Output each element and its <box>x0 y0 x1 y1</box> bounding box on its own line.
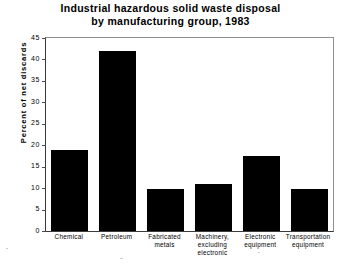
y-axis-tick-label: 10 <box>31 184 40 191</box>
y-axis-tick-mark <box>42 231 46 232</box>
x-axis-tick-label: Transportationequipment <box>277 233 339 249</box>
y-axis-tick-label: 15 <box>31 162 40 169</box>
bar <box>195 184 232 231</box>
y-axis-tick-label: 45 <box>31 34 40 41</box>
bar <box>147 189 184 231</box>
bar-series <box>46 38 333 231</box>
y-axis-tick-label: 35 <box>31 76 40 83</box>
chart-title: Industrial hazardous solid waste disposa… <box>0 2 341 28</box>
y-axis-tick-label: 30 <box>31 98 40 105</box>
chart-figure: Industrial hazardous solid waste disposa… <box>0 0 341 265</box>
bar <box>51 150 88 231</box>
x-axis-tick-label-line: equipment <box>277 241 339 249</box>
bar <box>243 156 280 231</box>
scan-artifact <box>120 258 123 259</box>
y-axis-tick-label: 5 <box>36 205 41 212</box>
chart-title-line-1: Industrial hazardous solid waste disposa… <box>0 2 341 15</box>
plot-area: 051015202530354045 <box>45 37 334 232</box>
x-axis-tick-label-line: Transportation <box>277 233 339 241</box>
chart-title-line-2: by manufacturing group, 1983 <box>0 15 341 28</box>
y-axis-tick-label: 20 <box>31 141 40 148</box>
scan-artifact <box>6 248 8 249</box>
y-axis-title: Percent of net discards <box>19 23 28 163</box>
x-axis-tick-label-line: electronic <box>182 249 244 257</box>
bar <box>291 189 328 231</box>
bar <box>99 51 136 231</box>
scan-artifact <box>258 252 260 253</box>
y-axis-tick-label: 40 <box>31 55 40 62</box>
y-axis-tick-label: 25 <box>31 119 40 126</box>
x-axis-tick-labels: ChemicalPetroleumFabricatedmetalsMachine… <box>45 233 332 265</box>
